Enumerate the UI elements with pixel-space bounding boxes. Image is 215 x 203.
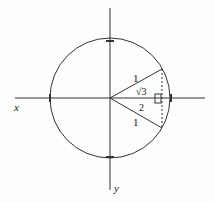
diagram-svg: 1 1 √3 2 x y [0,0,215,203]
lower-side-label: 1 [133,116,139,128]
x-axis-label: x [13,101,19,113]
unit-circle-diagram: 1 1 √3 2 x y [0,0,215,203]
y-axis-label: y [113,182,119,194]
height-label-numerator: √3 [136,86,147,97]
height-label-denominator: 2 [139,102,144,113]
upper-side-label: 1 [133,72,139,84]
